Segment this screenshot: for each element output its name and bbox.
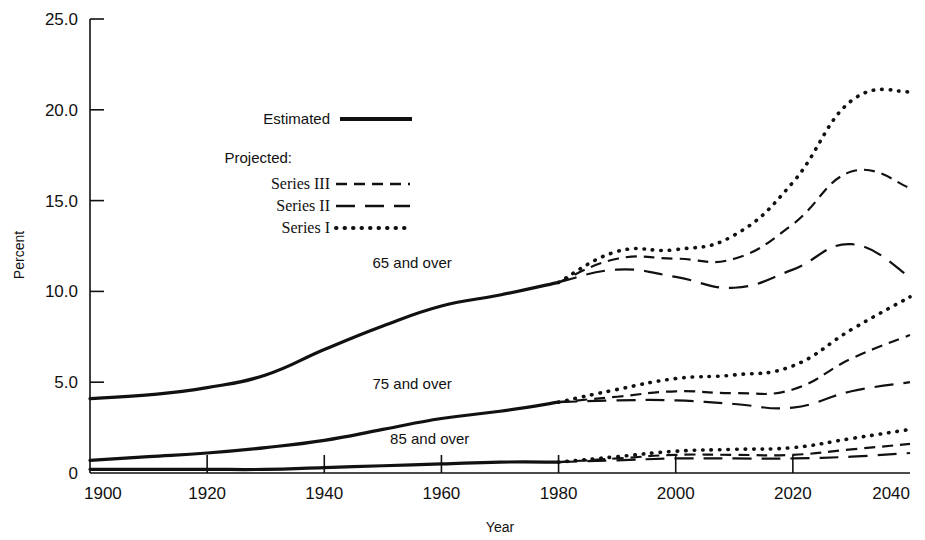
x-tick-label: 1920 bbox=[188, 484, 226, 503]
series-line bbox=[559, 170, 910, 283]
legend-entry-label: Series II bbox=[276, 197, 330, 214]
y-tick-marks bbox=[90, 19, 104, 382]
y-tick-label: 0 bbox=[69, 464, 78, 483]
x-tick-label: 2020 bbox=[774, 484, 812, 503]
x-axis-title: Year bbox=[486, 519, 515, 535]
data-series-layer bbox=[90, 89, 910, 469]
y-tick-label: 5.0 bbox=[54, 373, 78, 392]
population-percent-line-chart: 05.010.015.020.025.0 1900192019401960198… bbox=[0, 0, 925, 540]
series-line bbox=[90, 282, 559, 398]
x-tick-label: 1960 bbox=[423, 484, 461, 503]
series-annotation-label: 65 and over bbox=[373, 254, 452, 271]
y-tick-label: 10.0 bbox=[45, 282, 78, 301]
series-annotation-label: 75 and over bbox=[373, 375, 452, 392]
chart-axes bbox=[90, 19, 910, 473]
series-line bbox=[559, 297, 910, 402]
x-tick-label: 2040 bbox=[872, 484, 910, 503]
series-line bbox=[559, 89, 910, 282]
x-tick-label: 1900 bbox=[84, 484, 122, 503]
y-axis-title: Percent bbox=[11, 231, 27, 279]
x-tick-label: 1940 bbox=[305, 484, 343, 503]
x-tick-label: 1980 bbox=[540, 484, 578, 503]
legend-entry-label: Series III bbox=[271, 175, 330, 192]
series-annotation-label: 85 and over bbox=[390, 430, 469, 447]
legend-entry-label: Estimated bbox=[263, 110, 330, 127]
y-tick-label: 25.0 bbox=[45, 10, 78, 29]
x-tick-label: 2000 bbox=[657, 484, 695, 503]
series-line bbox=[559, 244, 910, 288]
series-line bbox=[559, 382, 910, 408]
y-tick-label: 15.0 bbox=[45, 192, 78, 211]
y-tick-labels: 05.010.015.020.025.0 bbox=[45, 10, 78, 483]
series-line bbox=[90, 402, 559, 460]
legend-entry-label: Series I bbox=[282, 219, 330, 236]
chart-legend: EstimatedProjected:Series IIISeries IISe… bbox=[224, 110, 412, 236]
y-tick-label: 20.0 bbox=[45, 101, 78, 120]
x-tick-labels: 19001920194019601980200020202040 bbox=[84, 484, 910, 503]
legend-entry-label: Projected: bbox=[224, 149, 292, 166]
series-line bbox=[559, 335, 910, 402]
chart-figure: 05.010.015.020.025.0 1900192019401960198… bbox=[0, 0, 925, 540]
